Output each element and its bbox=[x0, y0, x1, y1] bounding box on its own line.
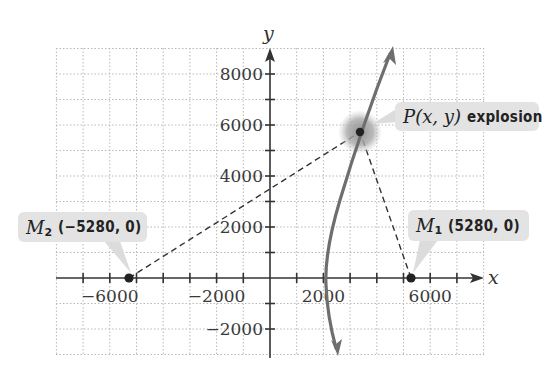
point-m2 bbox=[124, 273, 133, 282]
x-tick-label: 2000 bbox=[302, 286, 345, 306]
curve-arrow-bottom-icon bbox=[331, 339, 342, 356]
x-tick-label: −2000 bbox=[188, 286, 246, 306]
point-p-args: (x, y) bbox=[415, 106, 461, 127]
point-m2-name: M bbox=[26, 217, 44, 238]
point-p-name: P bbox=[403, 106, 415, 127]
point-m1-name: M bbox=[416, 215, 434, 236]
m1-callout-pointer bbox=[413, 240, 438, 273]
y-axis-label: y bbox=[262, 22, 274, 44]
m2-callout-pointer bbox=[104, 241, 131, 273]
callout-m2: M 2 (−5280, 0) bbox=[18, 212, 147, 242]
point-m1 bbox=[406, 273, 415, 282]
x-tick-label: −6000 bbox=[81, 286, 139, 306]
y-tick-label: 2000 bbox=[220, 217, 263, 237]
y-tick-label: 8000 bbox=[220, 64, 263, 84]
callout-m1: M 1 (5280, 0) bbox=[408, 210, 529, 241]
hyperbola-diagram: x y −6000 −2000 2000 6000 8000 6000 4000… bbox=[0, 0, 556, 376]
point-m1-subscript: 1 bbox=[434, 224, 442, 237]
y-tick-label: −2000 bbox=[205, 319, 263, 339]
point-m2-coords: (−5280, 0) bbox=[58, 218, 141, 236]
point-p bbox=[356, 128, 364, 136]
point-m1-coords: (5280, 0) bbox=[448, 217, 520, 235]
callout-p: P (x, y) explosion bbox=[395, 102, 539, 131]
y-axis bbox=[265, 56, 275, 358]
y-tick-label: 4000 bbox=[220, 166, 263, 186]
point-p-caption: explosion bbox=[467, 108, 543, 126]
point-m2-subscript: 2 bbox=[44, 226, 52, 239]
x-tick-label: 6000 bbox=[409, 286, 452, 306]
y-tick-label: 6000 bbox=[220, 115, 263, 135]
x-axis-label: x bbox=[488, 266, 499, 288]
